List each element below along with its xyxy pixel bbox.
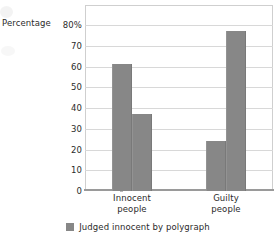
scan-artifact-top bbox=[0, 6, 13, 18]
bar-chart: Percentage 80%706050403020100 Innocentpe… bbox=[0, 0, 276, 233]
x-tick-label: Guiltypeople bbox=[181, 193, 271, 214]
legend-label: Judged innocent by polygraph bbox=[79, 222, 209, 232]
y-tick-label: 70 bbox=[40, 41, 82, 51]
x-axis-labels: InnocentpeopleGuiltypeople bbox=[85, 193, 273, 219]
y-tick-label: 20 bbox=[40, 145, 82, 155]
y-tick-label: 40 bbox=[40, 103, 82, 113]
y-axis-ticks: 80%706050403020100 bbox=[36, 5, 82, 191]
x-tick-label-line: people bbox=[181, 204, 271, 215]
bar bbox=[112, 64, 132, 191]
y-tick-label: 30 bbox=[40, 124, 82, 134]
y-tick-label: 80% bbox=[40, 20, 82, 30]
bar bbox=[226, 31, 246, 191]
x-tick-label: Innocentpeople bbox=[87, 193, 177, 214]
y-tick-mark bbox=[120, 191, 123, 192]
y-tick-label: 50 bbox=[40, 82, 82, 92]
scan-artifact-left bbox=[1, 46, 15, 56]
bar bbox=[132, 114, 152, 191]
y-tick-label: 10 bbox=[40, 165, 82, 175]
legend-swatch bbox=[66, 223, 74, 231]
chart-legend: Judged innocent by polygraph bbox=[0, 222, 276, 233]
bar bbox=[206, 141, 226, 191]
gridline bbox=[85, 25, 273, 26]
x-tick-label-line: Innocent bbox=[87, 193, 177, 204]
y-tick-label: 60 bbox=[40, 62, 82, 72]
y-tick-label: 0 bbox=[40, 186, 82, 196]
plot-area bbox=[85, 5, 273, 191]
x-tick-label-line: people bbox=[87, 204, 177, 215]
x-tick-label-line: Guilty bbox=[181, 193, 271, 204]
